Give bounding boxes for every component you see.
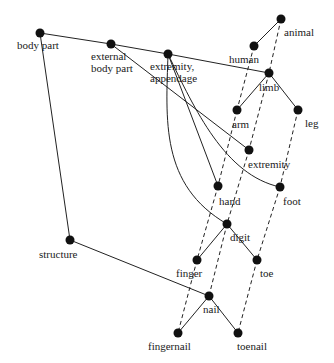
node-nail bbox=[205, 292, 214, 301]
edge-animal-human bbox=[254, 19, 281, 46]
node-extremity_appendage bbox=[164, 50, 173, 59]
edge-body_part-structure bbox=[40, 33, 70, 240]
node-external_body_part bbox=[107, 40, 116, 49]
node-body_part bbox=[36, 29, 45, 38]
node-label-structure: structure bbox=[39, 249, 77, 260]
node-label-external_body_part: body part bbox=[91, 63, 133, 74]
node-label-body_part: body part bbox=[17, 40, 59, 51]
dashed-edge-extremity-digit bbox=[227, 150, 249, 224]
node-finger bbox=[193, 256, 202, 265]
dashed-edge-animal-limb bbox=[269, 19, 281, 73]
node-label-nail: nail bbox=[203, 304, 220, 315]
dashed-edge-hand-finger bbox=[197, 186, 218, 260]
node-animal bbox=[277, 15, 286, 24]
node-label-foot: foot bbox=[283, 196, 301, 207]
dashed-edge-foot-toe bbox=[257, 187, 280, 260]
node-label-finger: finger bbox=[176, 268, 202, 279]
node-arm bbox=[233, 106, 242, 115]
node-label-toenail: toenail bbox=[237, 341, 267, 352]
node-label-digit: digit bbox=[230, 232, 250, 243]
node-label-arm: arm bbox=[232, 119, 249, 130]
node-label-human: human bbox=[229, 54, 259, 65]
node-limb bbox=[265, 69, 274, 78]
edge-digit-finger bbox=[197, 224, 227, 260]
node-toenail bbox=[234, 329, 243, 338]
node-label-external_body_part: external bbox=[91, 51, 126, 62]
dashed-edge-leg-foot bbox=[280, 110, 298, 187]
node-label-animal: animal bbox=[284, 27, 314, 38]
node-hand bbox=[214, 182, 223, 191]
node-label-limb: limb bbox=[259, 82, 279, 93]
node-structure bbox=[66, 236, 75, 245]
node-label-leg: leg bbox=[305, 118, 318, 129]
node-leg bbox=[294, 106, 303, 115]
node-label-extremity: extremity bbox=[248, 159, 290, 170]
semantic-network-diagram: body partexternalbody partextremity,appe… bbox=[0, 0, 334, 363]
node-foot bbox=[276, 183, 285, 192]
node-fingernail bbox=[174, 329, 183, 338]
node-toe bbox=[253, 256, 262, 265]
node-label-hand: hand bbox=[219, 196, 240, 207]
edges-layer bbox=[0, 0, 334, 363]
node-digit bbox=[223, 220, 232, 229]
node-label-toe: toe bbox=[260, 268, 273, 279]
node-label-fingernail: fingernail bbox=[148, 341, 191, 352]
node-label-extremity_appendage: extremity, bbox=[150, 61, 194, 72]
node-extremity bbox=[245, 146, 254, 155]
node-human bbox=[250, 42, 259, 51]
dashed-edge-toe-toenail bbox=[238, 260, 257, 333]
node-label-extremity_appendage: appendage bbox=[150, 73, 197, 84]
